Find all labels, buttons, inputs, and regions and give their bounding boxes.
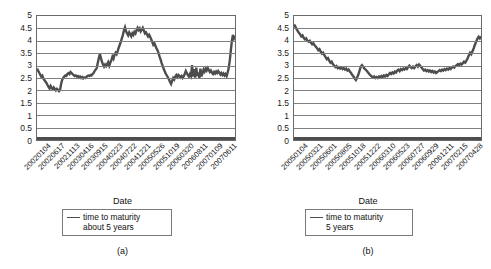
figure-container: 00.511.522.533.544.55 200201042002061720…	[0, 0, 491, 269]
chart-panel-b: 00.511.522.533.544.55 200501042005032120…	[245, 0, 491, 269]
y-axis-tick-label: 3	[27, 61, 32, 70]
legend-a: time to maturity about 5 years	[62, 209, 172, 236]
gridline	[294, 103, 481, 104]
y-axis-tick-label: 5	[284, 11, 289, 20]
gridline	[37, 128, 235, 129]
gridline	[294, 53, 481, 54]
gridline	[294, 78, 481, 79]
x-axis-labels-b: 2005010420050321200506012005080520051018…	[293, 142, 482, 194]
legend-b: time to maturity 5 years	[305, 209, 413, 236]
x-axis-baseline-a	[37, 137, 235, 140]
chart-a: 00.511.522.533.544.55 200201042002061720…	[0, 0, 245, 160]
x-axis-labels-a: 2002010420020617200211132003041620030915…	[36, 142, 236, 194]
legend-line-swatch-icon	[67, 217, 80, 218]
y-axis-tick-label: 0.5	[20, 124, 32, 133]
y-axis-tick-label: 1.5	[20, 99, 32, 108]
legend-label-line2-b: 5 years	[310, 222, 407, 232]
gridline	[294, 128, 481, 129]
y-axis-labels-b: 00.511.522.533.544.55	[257, 0, 291, 140]
plot-area-a	[36, 15, 236, 141]
y-axis-tick-label: 4	[27, 36, 32, 45]
y-axis-tick-label: 3.5	[20, 49, 32, 58]
x-axis-baseline-b	[294, 137, 481, 140]
gridline	[37, 66, 235, 67]
y-axis-tick-label: 5	[27, 11, 32, 20]
panel-caption-a: (a)	[0, 246, 245, 256]
gridline	[294, 28, 481, 29]
x-axis-title-a: Date	[0, 196, 245, 206]
y-axis-tick-label: 2	[27, 86, 32, 95]
gridline	[37, 41, 235, 42]
y-axis-tick-label: 4.5	[277, 23, 289, 32]
gridline	[37, 28, 235, 29]
gridline	[294, 115, 481, 116]
legend-row-b: time to maturity	[310, 212, 407, 222]
plot-area-b	[293, 15, 482, 141]
y-axis-labels-a: 00.511.522.533.544.55	[0, 0, 34, 140]
y-axis-tick-label: 1.5	[277, 99, 289, 108]
gridline	[37, 115, 235, 116]
y-axis-tick-label: 1	[27, 112, 32, 121]
y-axis-tick-label: 0.5	[277, 124, 289, 133]
gridline	[37, 78, 235, 79]
chart-b: 00.511.522.533.544.55 200501042005032120…	[245, 0, 491, 160]
legend-row-a: time to maturity	[67, 212, 166, 222]
y-axis-tick-label: 2.5	[20, 74, 32, 83]
y-axis-tick-label: 0	[284, 137, 289, 146]
panel-caption-b: (b)	[245, 246, 491, 256]
gridline	[37, 103, 235, 104]
legend-label-line1-a: time to maturity	[83, 212, 140, 222]
legend-label-line1-b: time to maturity	[326, 212, 383, 222]
gridline	[294, 41, 481, 42]
chart-panel-a: 00.511.522.533.544.55 200201042002061720…	[0, 0, 245, 269]
y-axis-tick-label: 3.5	[277, 49, 289, 58]
y-axis-tick-label: 4	[284, 36, 289, 45]
gridline	[294, 90, 481, 91]
y-axis-tick-label: 0	[27, 137, 32, 146]
gridline	[37, 90, 235, 91]
y-axis-tick-label: 4.5	[20, 23, 32, 32]
x-axis-title-b: Date	[245, 196, 491, 206]
gridline	[37, 53, 235, 54]
y-axis-tick-label: 3	[284, 61, 289, 70]
y-axis-tick-label: 2.5	[277, 74, 289, 83]
y-axis-tick-label: 1	[284, 112, 289, 121]
legend-label-line2-a: about 5 years	[67, 222, 166, 232]
gridline	[294, 66, 481, 67]
y-axis-tick-label: 2	[284, 86, 289, 95]
legend-line-swatch-icon	[310, 217, 323, 218]
